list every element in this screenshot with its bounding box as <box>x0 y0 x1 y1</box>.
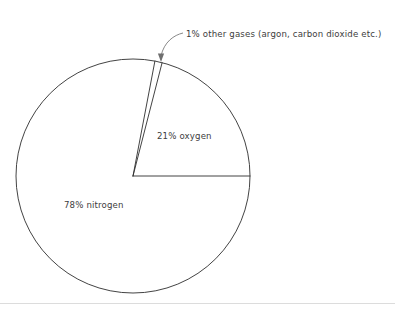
slice-label-oxygen: 21% oxygen <box>157 131 212 141</box>
callout-leader-line <box>161 33 183 56</box>
wedge-divider-oxygen-other <box>133 63 162 176</box>
slice-callout-other-gases: 1% other gases (argon, carbon dioxide et… <box>186 29 381 39</box>
pie-chart-svg <box>0 0 395 313</box>
slice-label-nitrogen: 78% nitrogen <box>64 200 124 210</box>
pie-chart-figure: 21% oxygen 78% nitrogen 1% other gases (… <box>0 0 395 313</box>
callout-arrowhead <box>158 54 164 62</box>
wedge-divider-other-nitrogen <box>133 61 155 176</box>
